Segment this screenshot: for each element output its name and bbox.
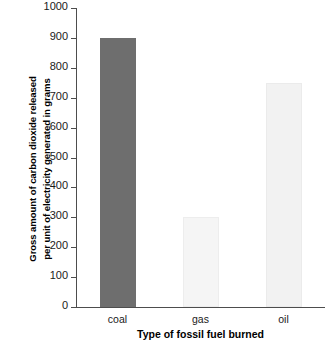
y-axis-tick-label: 500 bbox=[28, 150, 68, 162]
plot-area: 01002003004005006007008009001000 coalgas… bbox=[76, 8, 325, 307]
y-axis-tick-mark bbox=[71, 307, 76, 308]
x-axis-tick-label-coal: coal bbox=[78, 313, 158, 325]
bar-oil bbox=[266, 83, 302, 307]
y-axis-tick-label: 200 bbox=[28, 239, 68, 251]
y-axis-tick-label: 600 bbox=[28, 120, 68, 132]
bar-chart: Gross amount of carbon dioxide released … bbox=[0, 0, 332, 349]
y-axis-tick-label: 900 bbox=[28, 30, 68, 42]
y-axis-tick-mark bbox=[71, 187, 76, 188]
y-axis-tick-label: 0 bbox=[28, 299, 68, 311]
y-axis-tick-mark bbox=[71, 8, 76, 9]
y-axis-tick-label: 700 bbox=[28, 90, 68, 102]
y-axis-tick-label: 800 bbox=[28, 60, 68, 72]
y-axis-tick-mark bbox=[71, 277, 76, 278]
x-axis-line bbox=[76, 307, 325, 308]
y-axis-tick-mark bbox=[71, 38, 76, 39]
y-axis-tick-mark bbox=[71, 158, 76, 159]
y-axis-tick-label: 400 bbox=[28, 179, 68, 191]
x-axis-tick-label-oil: oil bbox=[244, 313, 324, 325]
y-axis-tick-mark bbox=[71, 128, 76, 129]
y-axis-tick-label: 100 bbox=[28, 269, 68, 281]
y-axis-tick-label: 300 bbox=[28, 209, 68, 221]
x-axis-title: Type of fossil fuel burned bbox=[76, 328, 325, 340]
x-axis-tick-label-gas: gas bbox=[161, 313, 241, 325]
bar-gas bbox=[183, 217, 219, 307]
y-axis-line bbox=[76, 8, 77, 307]
y-axis-tick-mark bbox=[71, 98, 76, 99]
y-axis-tick-mark bbox=[71, 68, 76, 69]
y-axis-tick-mark bbox=[71, 217, 76, 218]
y-axis-tick-mark bbox=[71, 247, 76, 248]
bar-coal bbox=[100, 38, 136, 307]
y-axis-tick-label: 1000 bbox=[28, 0, 68, 12]
